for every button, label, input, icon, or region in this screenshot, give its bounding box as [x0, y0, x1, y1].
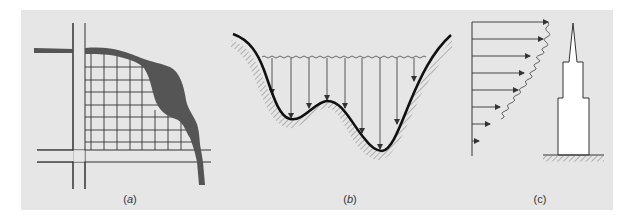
- panel-b-label: (b): [343, 193, 356, 205]
- panel-b-cross-section: [230, 34, 452, 160]
- water-surface: [262, 56, 426, 58]
- panel-a-label: (a): [123, 193, 136, 205]
- figure-canvas: [0, 0, 640, 222]
- velocity-envelope: [501, 22, 550, 119]
- velocity-arrows: [472, 22, 548, 141]
- panel-c-label: (c): [534, 193, 547, 205]
- panel-a-map: [34, 23, 211, 189]
- panel-c-wind-profile: [472, 22, 604, 162]
- ground-hatching: [543, 156, 604, 162]
- river: [34, 48, 205, 185]
- pressure-arrows: [272, 58, 414, 149]
- tower: [558, 23, 589, 155]
